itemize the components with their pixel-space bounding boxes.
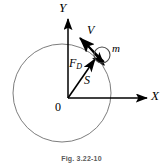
figure-caption: Fig. 3.22-10 (0, 155, 163, 162)
physics-figure: Y X 0 V FD S m Fig. 3.22-10 (0, 0, 163, 165)
velocity-vector-v (80, 38, 104, 62)
mass-label: m (112, 43, 120, 54)
velocity-vector-label: V (87, 24, 94, 36)
drag-force-subscript: D (76, 62, 82, 71)
diagram-canvas (0, 0, 163, 165)
x-axis-label: X (151, 89, 159, 102)
position-vector-label: S (84, 74, 90, 86)
origin-label: 0 (55, 101, 61, 113)
drag-force-vector-label: FD (69, 57, 82, 69)
orbit-circle (13, 44, 111, 142)
y-axis-label: Y (59, 1, 66, 14)
